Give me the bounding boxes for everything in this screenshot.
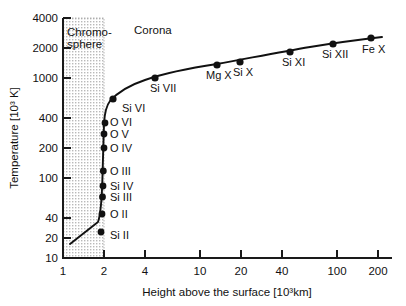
marker-si-iii <box>99 194 106 201</box>
point-label-si-ii: Si II <box>110 229 129 241</box>
x-tick-label-40: 40 <box>276 265 289 277</box>
point-label-si-xi: Si XI <box>282 56 305 68</box>
point-label-si-vi: Si VI <box>122 102 145 114</box>
y-tick-label-40: 40 <box>45 212 58 224</box>
corona-label: Corona <box>134 24 172 36</box>
point-label-si-x: Si X <box>233 66 254 78</box>
x-tick-label-2: 2 <box>101 265 107 277</box>
point-label-mg-x: Mg X <box>206 69 232 81</box>
y-tick-label-20: 20 <box>45 232 58 244</box>
y-tick-label-100: 100 <box>39 172 58 184</box>
x-axis-ticks <box>63 250 378 258</box>
x-tick-label-4: 4 <box>142 265 149 277</box>
marker-o-vi <box>102 120 109 127</box>
marker-o-iv <box>101 145 108 152</box>
marker-o-v <box>101 131 108 138</box>
y-axis-title: Temperature [10³ K] <box>8 87 20 189</box>
point-label-si-iv: Si IV <box>110 180 134 192</box>
x-tick-label-1: 1 <box>60 265 66 277</box>
y-tick-label-2000: 2000 <box>32 42 58 54</box>
point-label-o-iv: O IV <box>110 142 133 154</box>
y-tick-label-10: 10 <box>45 252 58 264</box>
point-label-fe-x: Fe X <box>362 43 386 55</box>
marker-fe-x <box>367 34 374 41</box>
marker-si-xii <box>329 40 336 47</box>
x-tick-label-10: 10 <box>194 265 207 277</box>
marker-si-xi <box>286 48 293 55</box>
chromosphere-label-line2: sphere <box>67 38 102 50</box>
point-label-o-ii: O II <box>110 208 128 220</box>
point-label-o-iii: O III <box>110 165 131 177</box>
marker-o-iii <box>100 168 107 175</box>
chart-canvas: 4000 2000 1000 400 200 100 40 20 10 1 2 … <box>0 0 406 306</box>
point-label-o-vi: O VI <box>110 116 132 128</box>
chromosphere-label-line1: Chromo- <box>67 26 112 38</box>
data-point-labels: Si II O II Si III Si IV O III O IV O V O… <box>110 43 386 241</box>
marker-mg-x <box>213 61 220 68</box>
point-label-si-iii: Si III <box>110 191 132 203</box>
data-point-markers <box>98 34 375 235</box>
point-label-si-xii: Si XII <box>322 48 348 60</box>
solar-temperature-chart: 4000 2000 1000 400 200 100 40 20 10 1 2 … <box>0 0 406 306</box>
y-tick-label-4000: 4000 <box>32 12 58 24</box>
marker-si-ii <box>98 229 105 236</box>
x-axis-title: Height above the surface [10³km] <box>142 286 311 298</box>
x-tick-label-20: 20 <box>235 265 248 277</box>
marker-o-ii <box>99 211 106 218</box>
y-tick-label-1000: 1000 <box>32 72 58 84</box>
marker-si-vi <box>109 95 116 102</box>
x-tick-label-200: 200 <box>368 265 387 277</box>
marker-si-x <box>236 58 243 65</box>
marker-si-iv <box>100 183 107 190</box>
marker-si-vii <box>151 74 158 81</box>
y-tick-label-400: 400 <box>39 112 58 124</box>
point-label-o-v: O V <box>110 128 130 140</box>
y-tick-label-200: 200 <box>39 142 58 154</box>
x-tick-label-100: 100 <box>327 265 346 277</box>
point-label-si-vii: Si VII <box>150 82 176 94</box>
